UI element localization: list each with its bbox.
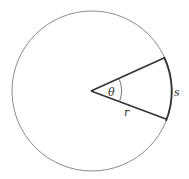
- radius-label: r: [124, 106, 130, 119]
- radius-upper-line: [91, 58, 164, 91]
- theta-label: θ: [108, 86, 115, 99]
- arc-s: [164, 57, 172, 121]
- arc-length-label: s: [174, 86, 180, 99]
- angle-arc-theta: [119, 79, 122, 102]
- sector-diagram: θ r s: [0, 0, 189, 179]
